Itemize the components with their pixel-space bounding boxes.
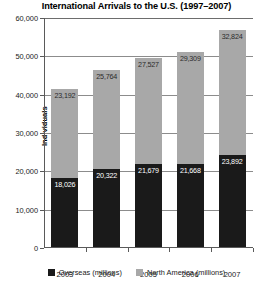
bar-segment-north-america[interactable]: 27,527	[135, 58, 162, 164]
chart-container: International Arrivals to the U.S. (1997…	[0, 0, 273, 284]
plot-area: Individuals 010,00020,00030,00040,00050,…	[44, 18, 253, 248]
bar-value-label: 23,892	[219, 157, 246, 166]
bar-stack[interactable]: 23,89232,824	[219, 17, 246, 247]
y-tick-label: 30,000	[15, 129, 38, 138]
bar-segment-north-america[interactable]: 29,309	[177, 52, 204, 164]
chart-legend: Overseas (millions)North America (millio…	[0, 268, 273, 277]
bar-value-label: 21,668	[177, 166, 204, 175]
bar-value-label: 32,824	[219, 32, 246, 41]
bar-segment-overseas[interactable]: 21,679	[135, 164, 162, 247]
bar-segment-overseas[interactable]: 20,322	[93, 169, 120, 247]
bar-segment-north-america[interactable]: 23,192	[51, 89, 78, 178]
bar-value-label: 27,527	[135, 60, 162, 69]
bar-stack[interactable]: 18,02623,192	[51, 17, 78, 247]
x-tick	[169, 248, 170, 252]
bar-value-label: 20,322	[93, 171, 120, 180]
y-axis-line	[44, 18, 45, 248]
bar-value-label: 18,026	[51, 180, 78, 189]
legend-swatch-icon	[48, 269, 55, 276]
bar-segment-overseas[interactable]: 23,892	[219, 155, 246, 247]
bar-value-label: 25,764	[93, 72, 120, 81]
y-tick-label: 50,000	[15, 52, 38, 61]
bar-value-label: 29,309	[177, 54, 204, 63]
bar-stack[interactable]: 20,32225,764	[93, 17, 120, 247]
bar-segment-north-america[interactable]: 32,824	[219, 30, 246, 156]
y-tick-label: 0	[34, 244, 38, 253]
bar-value-label: 21,679	[135, 166, 162, 175]
legend-swatch-icon	[136, 269, 143, 276]
y-tick-label: 20,000	[15, 167, 38, 176]
y-tick-label: 60,000	[15, 14, 38, 23]
y-tick-label: 10,000	[15, 205, 38, 214]
x-axis-line	[44, 247, 253, 248]
legend-label: Overseas (millions)	[59, 268, 122, 277]
legend-item[interactable]: Overseas (millions)	[48, 268, 122, 277]
y-tick-label: 40,000	[15, 90, 38, 99]
bar-stack[interactable]: 21,66829,309	[177, 17, 204, 247]
x-tick	[211, 248, 212, 252]
bar-segment-north-america[interactable]: 25,764	[93, 70, 120, 169]
bar-value-label: 23,192	[51, 91, 78, 100]
bar-segment-overseas[interactable]: 21,668	[177, 164, 204, 247]
x-tick	[86, 248, 87, 252]
legend-item[interactable]: North America (millions)	[136, 268, 225, 277]
bar-stack[interactable]: 21,67927,527	[135, 17, 162, 247]
y-tick	[40, 248, 44, 249]
legend-label: North America (millions)	[147, 268, 225, 277]
bar-segment-overseas[interactable]: 18,026	[51, 178, 78, 247]
chart-title: International Arrivals to the U.S. (1997…	[0, 1, 273, 11]
x-tick	[253, 248, 254, 252]
x-tick	[128, 248, 129, 252]
